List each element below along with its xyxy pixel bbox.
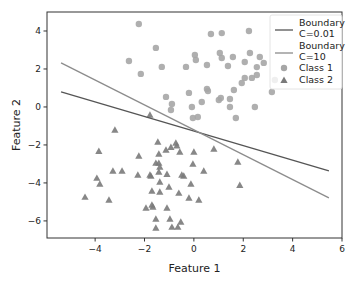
class-1-point bbox=[159, 64, 165, 70]
y-tick-label: 0 bbox=[35, 102, 41, 112]
legend-label: C=10 bbox=[299, 51, 326, 62]
class-2-point bbox=[105, 196, 112, 202]
class-1-point bbox=[126, 58, 132, 64]
class-1-point bbox=[254, 72, 260, 78]
y-axis-label: Feature 2 bbox=[10, 99, 23, 151]
x-tick-label: −4 bbox=[88, 244, 102, 254]
class-2-point bbox=[187, 180, 194, 186]
class-1-point bbox=[230, 54, 236, 60]
class-1-point bbox=[247, 50, 253, 56]
class-1-point bbox=[199, 99, 205, 105]
y-tick-label: −4 bbox=[28, 178, 42, 188]
class-1-point bbox=[225, 63, 231, 69]
x-tick-label: 4 bbox=[290, 244, 296, 254]
legend-label: Class 1 bbox=[299, 62, 333, 73]
legend-label: Boundary bbox=[299, 17, 345, 28]
class-2-point bbox=[142, 204, 149, 210]
class-1-point bbox=[231, 87, 237, 93]
class-1-point bbox=[183, 64, 189, 70]
class-2-point bbox=[95, 147, 102, 153]
class-1-point bbox=[261, 60, 267, 66]
class-2-point bbox=[163, 204, 170, 210]
legend: BoundaryC=0.01BoundaryC=10Class 1Class 2 bbox=[270, 15, 345, 89]
class-1-point bbox=[242, 59, 248, 65]
x-axis-label: Feature 1 bbox=[168, 262, 220, 275]
class-2-point bbox=[81, 193, 88, 199]
y-tick-label: −6 bbox=[28, 216, 42, 226]
class-2-point bbox=[148, 187, 155, 193]
class-1-point bbox=[153, 45, 159, 51]
class-1-point bbox=[195, 114, 201, 120]
class-1-point bbox=[208, 31, 214, 37]
class-2-point bbox=[163, 170, 170, 176]
boundary-line-c-0-01 bbox=[61, 92, 329, 171]
class-1-point bbox=[252, 104, 258, 110]
class-1-point bbox=[205, 88, 211, 94]
class-2-point bbox=[190, 148, 197, 154]
class-1-point bbox=[136, 21, 142, 27]
class-2-point bbox=[185, 194, 192, 200]
class-1-point bbox=[186, 90, 192, 96]
class-2-point bbox=[111, 126, 118, 132]
class-1-point bbox=[218, 95, 224, 101]
class-2-point bbox=[166, 215, 173, 221]
class-1-point bbox=[254, 64, 260, 70]
y-tick-label: −2 bbox=[28, 140, 41, 150]
class-2-point bbox=[165, 183, 172, 189]
legend-label: Boundary bbox=[299, 40, 345, 51]
class-1-point bbox=[233, 115, 239, 121]
x-axis-ticks: −4−20246 bbox=[88, 238, 345, 254]
class-1-point bbox=[168, 107, 174, 113]
legend-label: C=0.01 bbox=[299, 28, 335, 39]
class-2-point bbox=[154, 138, 161, 144]
class-1-point bbox=[227, 96, 233, 102]
x-tick-label: 6 bbox=[339, 244, 345, 254]
class-1-point bbox=[246, 28, 252, 34]
class-1-point bbox=[189, 104, 195, 110]
y-axis-ticks: −6−4−2024 bbox=[28, 26, 47, 226]
y-tick-label: 2 bbox=[35, 64, 41, 74]
class-2-point bbox=[168, 223, 175, 229]
class-2-point bbox=[134, 171, 141, 177]
legend-circle-marker bbox=[281, 65, 287, 71]
x-tick-label: 0 bbox=[191, 244, 197, 254]
class-2-point bbox=[177, 218, 184, 224]
class-2-point bbox=[236, 181, 243, 187]
class-2-point bbox=[152, 224, 159, 230]
class-2-point bbox=[176, 148, 183, 154]
class-2-point bbox=[118, 167, 125, 173]
legend-label: Class 2 bbox=[299, 74, 333, 85]
class-1-point bbox=[219, 55, 225, 61]
class-2-point bbox=[93, 174, 100, 180]
class-2-point bbox=[156, 178, 163, 184]
class-2-point bbox=[195, 196, 202, 202]
class-2-point bbox=[156, 188, 163, 194]
x-tick-label: 2 bbox=[240, 244, 246, 254]
class-2-point bbox=[175, 189, 182, 195]
chart: −4−20246 −6−4−2024 Feature 1 Feature 2 B… bbox=[0, 0, 358, 281]
class-1-point bbox=[169, 101, 175, 107]
class-2-point bbox=[210, 145, 217, 151]
class-1-point bbox=[242, 75, 248, 81]
class-1-point bbox=[257, 54, 263, 60]
class-1-point bbox=[163, 94, 169, 100]
y-tick-label: 4 bbox=[35, 26, 41, 36]
class-2-point bbox=[189, 160, 196, 166]
class-1-point bbox=[269, 89, 275, 95]
class-2-point bbox=[155, 150, 162, 156]
class-2-point bbox=[152, 215, 159, 221]
class-2-point bbox=[234, 158, 241, 164]
class-2-point bbox=[96, 180, 103, 186]
class-2-point bbox=[135, 152, 142, 158]
class-1-point bbox=[219, 30, 225, 36]
class-2-point bbox=[109, 167, 116, 173]
class-1-point bbox=[204, 62, 210, 68]
x-tick-label: −2 bbox=[138, 244, 151, 254]
class-1-point bbox=[227, 104, 233, 110]
class-1-point bbox=[138, 71, 144, 77]
class-2-point bbox=[200, 167, 207, 173]
class-1-point bbox=[193, 57, 199, 63]
